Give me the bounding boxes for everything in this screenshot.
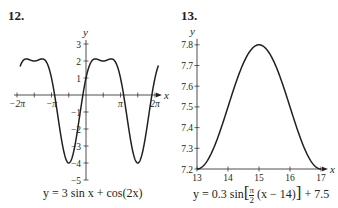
plot-13: xy13141516177.87.77.67.57.47.37.2 xyxy=(181,25,335,183)
x-tick-label: π xyxy=(118,99,123,109)
y-tick-label: −5 xyxy=(71,176,81,186)
caption-12: y = 3 sin x + cos(2x) xyxy=(43,186,143,201)
y-tick-label: −4 xyxy=(71,159,81,169)
x-tick-label: 14 xyxy=(223,173,233,183)
x-axis-label: x xyxy=(329,163,335,175)
caption-13-pre: y = 0.3 sin xyxy=(193,187,244,201)
x-axis-label: x xyxy=(163,89,169,101)
y-axis-label: y xyxy=(189,25,195,37)
caption-13: y = 0.3 sin[π2 (x − 14)] + 7.5 xyxy=(193,183,329,205)
x-tick-label: −2π xyxy=(9,99,25,109)
x-axis-arrow-icon xyxy=(156,93,162,97)
x-tick-label: 17 xyxy=(316,173,326,183)
plots-canvas: xy−2π−ππ2π321−1−2−3−4−5 xy13141516177.87… xyxy=(0,0,338,208)
y-tick-label: 7.5 xyxy=(181,102,193,112)
y-tick-label: 7.2 xyxy=(181,165,193,175)
x-tick-label: 15 xyxy=(254,173,264,183)
y-tick-label: 3 xyxy=(76,40,81,50)
x-tick-label: 16 xyxy=(285,173,295,183)
curve-12 xyxy=(20,59,158,163)
y-tick-label: 1 xyxy=(76,74,81,84)
y-tick-label: −2 xyxy=(71,125,81,135)
plot-12: xy−2π−ππ2π321−1−2−3−4−5 xyxy=(9,26,169,186)
y-tick-label: 7.3 xyxy=(181,144,193,154)
caption-13-post: + 7.5 xyxy=(304,187,329,201)
x-tick-label: 13 xyxy=(192,173,202,183)
caption-13-frac-den: 2 xyxy=(249,196,254,205)
x-axis-arrow-icon xyxy=(322,167,328,171)
y-tick-label: 7.4 xyxy=(181,123,193,133)
y-tick-label: 7.7 xyxy=(181,61,193,71)
y-tick-label: 7.8 xyxy=(181,40,193,50)
curve-13 xyxy=(197,45,321,169)
y-axis-label: y xyxy=(82,26,88,38)
y-tick-label: 7.6 xyxy=(181,82,193,92)
y-tick-label: 2 xyxy=(76,57,81,67)
caption-13-mid: (x − 14) xyxy=(257,187,296,201)
